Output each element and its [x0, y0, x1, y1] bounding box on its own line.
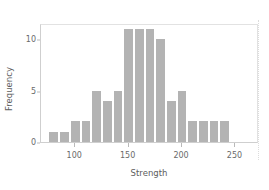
histogram-bar — [166, 101, 177, 142]
y-axis-tick-label: 5 — [31, 88, 36, 96]
x-axis-tick-mark — [74, 143, 75, 147]
histogram-bar — [70, 121, 81, 142]
histogram-bar — [145, 29, 156, 142]
x-axis-tick-mark — [128, 143, 129, 147]
y-axis-label: Frequency — [4, 53, 14, 125]
x-axis-tick-label: 100 — [67, 152, 82, 160]
x-axis-tick-label: 250 — [227, 152, 242, 160]
histogram-bar — [177, 91, 188, 142]
x-axis-label: Strength — [40, 168, 258, 178]
histogram-bar — [48, 132, 59, 142]
y-axis-tick-label: 10 — [26, 36, 36, 44]
histogram-bar — [102, 101, 113, 142]
x-axis-tick-label: 150 — [120, 152, 135, 160]
plot-area — [40, 24, 258, 143]
histogram-bar — [113, 91, 124, 142]
histogram-bar — [219, 121, 230, 142]
histogram-bar — [187, 121, 198, 142]
histogram-figure: 0510 Frequency 100150200250 Strength — [0, 0, 269, 190]
y-axis-tick-label: 0 — [31, 139, 36, 147]
x-axis-tick-label: 200 — [173, 152, 188, 160]
histogram-bar — [155, 39, 166, 142]
x-axis-tick-mark — [234, 143, 235, 147]
histogram-bar — [134, 29, 145, 142]
histogram-bar — [81, 121, 92, 142]
right-edge-guide — [258, 20, 259, 160]
histogram-bar — [91, 91, 102, 142]
histogram-bar — [123, 29, 134, 142]
bars-container — [41, 25, 257, 142]
histogram-bar — [209, 121, 220, 142]
histogram-bar — [198, 121, 209, 142]
x-axis-tick-mark — [181, 143, 182, 147]
histogram-bar — [59, 132, 70, 142]
